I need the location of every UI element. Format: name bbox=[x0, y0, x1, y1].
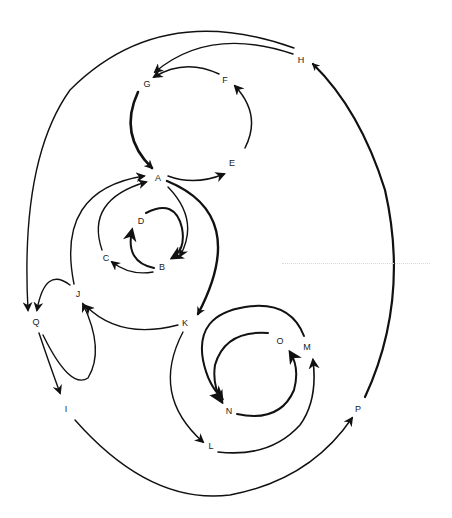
edge-A-K bbox=[167, 181, 218, 314]
node-H: H bbox=[298, 56, 305, 65]
node-O: O bbox=[276, 337, 283, 346]
node-A: A bbox=[155, 174, 161, 183]
edge-A-E bbox=[168, 174, 224, 181]
edge-O-N bbox=[214, 333, 268, 402]
scan-artifact bbox=[282, 263, 430, 268]
edge-E-F bbox=[235, 86, 252, 148]
node-I: I bbox=[65, 405, 68, 414]
edge-P-H bbox=[313, 64, 394, 397]
edge-A-B bbox=[168, 187, 188, 256]
node-Q: Q bbox=[32, 318, 39, 327]
node-L: L bbox=[208, 442, 213, 451]
node-M: M bbox=[303, 343, 311, 352]
edge-I-P bbox=[75, 418, 352, 496]
edge-D-B bbox=[146, 208, 183, 258]
node-E: E bbox=[229, 159, 235, 168]
node-K: K bbox=[182, 319, 188, 328]
node-B: B bbox=[159, 263, 165, 272]
edge-J-Q bbox=[37, 279, 70, 310]
edge-N-O bbox=[237, 352, 296, 416]
node-P: P bbox=[355, 405, 361, 414]
edge-F-G bbox=[154, 67, 219, 77]
edge-L-M bbox=[218, 360, 314, 453]
node-D: D bbox=[138, 217, 145, 226]
edge-K-J bbox=[86, 306, 178, 330]
node-G: G bbox=[143, 80, 150, 89]
edge-K-L bbox=[170, 332, 203, 442]
edge-B-C bbox=[112, 262, 153, 273]
edge-G-A bbox=[131, 92, 152, 168]
edge-B-D bbox=[131, 230, 154, 268]
edge-K-N bbox=[202, 306, 304, 398]
node-C: C bbox=[103, 254, 110, 263]
edge-Q-I bbox=[39, 333, 60, 393]
node-N: N bbox=[226, 407, 233, 416]
node-F: F bbox=[222, 76, 228, 85]
node-J: J bbox=[76, 290, 81, 299]
